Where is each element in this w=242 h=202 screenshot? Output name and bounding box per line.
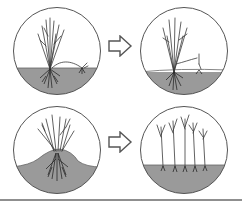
shrub-rooted-layer-illustration xyxy=(139,6,229,96)
panel-top-left-layering-before xyxy=(12,6,102,96)
bottom-divider-rule xyxy=(0,199,242,201)
panel-bottom-left-mound-before xyxy=(12,105,102,195)
right-arrow-icon xyxy=(107,35,133,57)
panel-bottom-right-mound-after xyxy=(139,105,229,195)
shrub-pegged-stem-illustration xyxy=(12,6,102,96)
mounded-plant-illustration xyxy=(12,105,102,195)
separated-rooted-shoots-illustration xyxy=(139,105,229,195)
right-arrow-icon xyxy=(107,131,133,153)
panel-top-right-layering-after xyxy=(139,6,229,96)
